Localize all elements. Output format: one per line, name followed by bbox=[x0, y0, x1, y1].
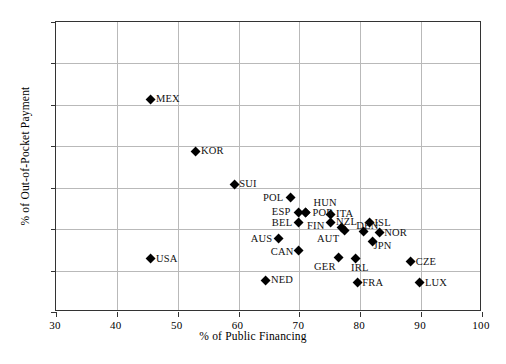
x-axis-tick-label: 60 bbox=[218, 320, 258, 331]
data-point-marker bbox=[294, 246, 304, 256]
gridline-horizontal bbox=[56, 271, 480, 272]
data-point-marker bbox=[261, 275, 271, 285]
data-point-label: SUI bbox=[239, 179, 257, 190]
data-point-marker bbox=[146, 254, 156, 264]
x-axis-tick bbox=[299, 312, 300, 317]
data-point-label: JPN bbox=[373, 241, 391, 252]
y-axis-tick bbox=[51, 105, 56, 106]
data-point-marker bbox=[294, 218, 304, 228]
data-point-label: AUS bbox=[251, 234, 273, 245]
gridline-vertical bbox=[299, 22, 300, 310]
x-axis-tick-label: 90 bbox=[400, 320, 440, 331]
gridline-horizontal bbox=[56, 105, 480, 106]
data-point-marker bbox=[326, 218, 336, 228]
data-point-label: CAN bbox=[271, 247, 294, 258]
data-point-label: GER bbox=[314, 262, 336, 273]
data-point-label: BEL bbox=[272, 218, 292, 229]
data-point-label: KOR bbox=[201, 146, 224, 157]
x-axis-tick-label: 70 bbox=[278, 320, 318, 331]
data-point-marker bbox=[286, 193, 296, 203]
data-point-marker bbox=[415, 278, 425, 288]
x-axis-tick-label: 40 bbox=[96, 320, 136, 331]
y-axis-tick bbox=[51, 63, 56, 64]
y-axis-tick bbox=[51, 229, 56, 230]
data-point-marker bbox=[274, 234, 284, 244]
x-axis-tick bbox=[178, 312, 179, 317]
plot-area bbox=[55, 21, 481, 311]
y-axis-title: % of Out-of-Pocket Payment bbox=[19, 26, 31, 286]
x-axis-tick bbox=[56, 312, 57, 317]
gridline-horizontal bbox=[56, 229, 480, 230]
x-axis-tick-label: 50 bbox=[157, 320, 197, 331]
gridline-horizontal bbox=[56, 146, 480, 147]
data-point-label: CZE bbox=[416, 257, 436, 268]
data-point-label: LUX bbox=[425, 278, 447, 289]
data-point-label: NED bbox=[271, 275, 293, 286]
data-point-marker bbox=[406, 257, 416, 267]
data-point-label: POR bbox=[313, 208, 334, 219]
x-axis-tick bbox=[239, 312, 240, 317]
x-axis-tick bbox=[117, 312, 118, 317]
gridline-horizontal bbox=[56, 188, 480, 189]
gridline-horizontal bbox=[56, 63, 480, 64]
data-point-label: NZL bbox=[336, 217, 357, 228]
data-point-label: AUT bbox=[317, 234, 339, 245]
y-axis-tick bbox=[51, 188, 56, 189]
x-axis-tick bbox=[360, 312, 361, 317]
x-axis-tick-label: 100 bbox=[461, 320, 501, 331]
x-axis-tick bbox=[482, 312, 483, 317]
y-axis-tick bbox=[51, 271, 56, 272]
x-axis-tick-label: 80 bbox=[339, 320, 379, 331]
data-point-label: USA bbox=[156, 254, 178, 265]
gridline-vertical bbox=[117, 22, 118, 310]
gridline-vertical bbox=[178, 22, 179, 310]
data-point-label: POL bbox=[263, 193, 283, 204]
data-point-marker bbox=[146, 94, 156, 104]
x-axis-tick bbox=[421, 312, 422, 317]
data-point-label: DEN bbox=[356, 221, 378, 232]
gridline-vertical bbox=[239, 22, 240, 310]
x-axis-title: % of Public Financing bbox=[0, 330, 506, 342]
data-point-marker bbox=[191, 146, 201, 156]
scatter-chart-figure: % of Out-of-Pocket Payment % of Public F… bbox=[0, 0, 506, 364]
data-point-label: IRL bbox=[351, 263, 369, 274]
y-axis-tick bbox=[51, 22, 56, 23]
data-point-label: FIN bbox=[307, 221, 325, 232]
data-point-label: MEX bbox=[156, 94, 180, 105]
data-point-label: NOR bbox=[384, 228, 407, 239]
y-axis-tick bbox=[51, 146, 56, 147]
data-point-label: FRA bbox=[362, 278, 383, 289]
data-point-marker bbox=[300, 207, 310, 217]
x-axis-tick-label: 30 bbox=[35, 320, 75, 331]
